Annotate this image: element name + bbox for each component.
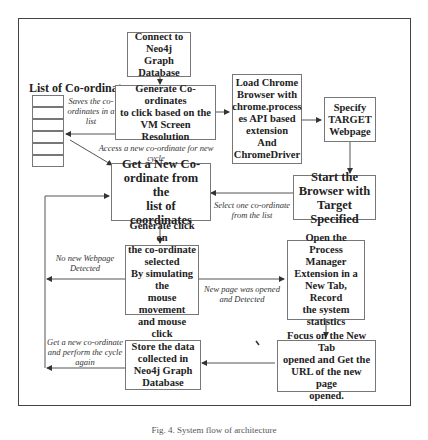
box-connect-neo4j: Connect to Neo4j Graph Database bbox=[127, 32, 191, 77]
box-load-chrome: Load Chrome Browser with chrome.process … bbox=[232, 74, 302, 164]
figure-caption: Fig. 4. System flow of architecture bbox=[0, 425, 428, 435]
label-new-page-opened: New page was opened and Detected bbox=[200, 284, 284, 304]
list-cell bbox=[32, 119, 64, 131]
box-open-process-manager: Open the Process Manager Extension in a … bbox=[287, 240, 365, 320]
box-generate-click: Generate click on the co-ordinate select… bbox=[125, 245, 199, 315]
list-cell bbox=[32, 131, 64, 143]
label-access-new: Access a new co-ordinate for new cycle bbox=[96, 143, 216, 163]
label-no-new-page: No new Webpage Detected bbox=[52, 253, 118, 273]
list-cell bbox=[32, 155, 64, 167]
box-focus-new-tab: Focus on the New Tab opened and Get the … bbox=[277, 340, 376, 392]
box-get-new-coordinate: Get a New Co- ordinate from the list of … bbox=[111, 163, 211, 221]
list-cell bbox=[32, 107, 64, 119]
list-cell bbox=[32, 95, 64, 107]
box-start-browser: Start the Browser with Target Specified bbox=[293, 175, 376, 220]
label-select-one: Select one co-ordinate from the list bbox=[212, 200, 292, 220]
list-cell bbox=[32, 143, 64, 155]
box-specify-target: Specify TARGET Webpage bbox=[324, 97, 376, 142]
label-get-new-cycle: Get a new co-ordinate and perform the cy… bbox=[46, 337, 124, 367]
label-saves-list: Saves the co- ordinates in a list bbox=[66, 96, 116, 126]
box-generate-coordinates: Generate Co-ordinates to click based on … bbox=[115, 85, 216, 140]
box-store-data: Store the data collected in Neo4j Graph … bbox=[125, 340, 201, 390]
